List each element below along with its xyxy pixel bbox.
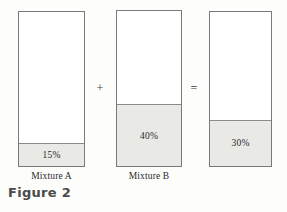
column-caption-a: Mixture A (18, 171, 85, 181)
equals-operator-icon: = (186, 82, 202, 94)
mixture-fill-b: 40% (117, 104, 181, 166)
figure-caption: Figure 2 (8, 185, 71, 200)
mixture-fill-label-b: 40% (117, 131, 181, 141)
column-caption-b: Mixture B (116, 171, 182, 181)
mixture-fill-a: 15% (19, 143, 84, 166)
mixture-column-result: 30% (209, 11, 272, 167)
mixture-fill-label-result: 30% (210, 138, 271, 148)
mixture-column-b: 40% (116, 10, 182, 167)
mixture-column-a: 15% (18, 11, 85, 167)
mixture-fill-result: 30% (210, 120, 271, 166)
mixture-fill-label-a: 15% (19, 150, 84, 160)
figure-stage: 15% + 40% = 30% Mixture A Mixture B Figu… (0, 0, 287, 212)
plus-operator-icon: + (92, 82, 108, 94)
